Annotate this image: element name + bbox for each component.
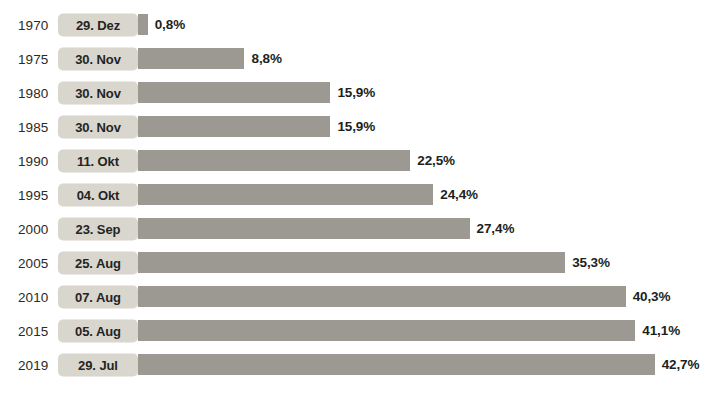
row-date-pill: 04. Okt	[58, 183, 138, 206]
row-date-pill: 30. Nov	[58, 115, 138, 138]
row-year-label: 1975	[18, 51, 58, 66]
row-bar	[138, 184, 433, 205]
chart-row: 199011. Okt22,5%	[0, 150, 720, 171]
chart-row: 199504. Okt24,4%	[0, 184, 720, 205]
row-date-pill: 30. Nov	[58, 47, 138, 70]
row-bar	[138, 320, 635, 341]
row-year-label: 2015	[18, 323, 58, 338]
row-bar-area: 22,5%	[138, 150, 720, 171]
row-date-pill: 23. Sep	[58, 217, 138, 240]
row-date-pill: 29. Dez	[58, 13, 138, 36]
row-bar-area: 8,8%	[138, 48, 720, 69]
row-year-label: 2000	[18, 221, 58, 236]
row-bar	[138, 116, 330, 137]
chart-row: 200023. Sep27,4%	[0, 218, 720, 239]
chart-row: 198030. Nov15,9%	[0, 82, 720, 103]
row-value-label: 35,3%	[572, 255, 610, 270]
row-date-pill: 29. Jul	[58, 353, 138, 376]
chart-row: 197029. Dez0,8%	[0, 14, 720, 35]
row-year-label: 1970	[18, 17, 58, 32]
row-bar	[138, 218, 470, 239]
row-year-label: 2005	[18, 255, 58, 270]
chart-row: 198530. Nov15,9%	[0, 116, 720, 137]
row-bar	[138, 14, 148, 35]
row-value-label: 41,1%	[642, 323, 680, 338]
row-bar-area: 42,7%	[138, 354, 720, 375]
row-date-pill: 25. Aug	[58, 251, 138, 274]
row-date-pill: 11. Okt	[58, 149, 138, 172]
row-bar	[138, 286, 626, 307]
row-bar-area: 41,1%	[138, 320, 720, 341]
overshoot-day-bar-chart: 197029. Dez0,8%197530. Nov8,8%198030. No…	[0, 0, 720, 396]
row-bar-area: 0,8%	[138, 14, 720, 35]
row-bar	[138, 82, 330, 103]
row-value-label: 15,9%	[337, 119, 375, 134]
row-bar	[138, 48, 244, 69]
row-value-label: 40,3%	[633, 289, 671, 304]
chart-row: 197530. Nov8,8%	[0, 48, 720, 69]
row-bar-area: 40,3%	[138, 286, 720, 307]
row-bar-area: 15,9%	[138, 116, 720, 137]
row-date-pill: 30. Nov	[58, 81, 138, 104]
row-year-label: 1990	[18, 153, 58, 168]
chart-rows: 197029. Dez0,8%197530. Nov8,8%198030. No…	[0, 14, 720, 375]
row-bar-area: 35,3%	[138, 252, 720, 273]
row-date-pill: 07. Aug	[58, 285, 138, 308]
row-year-label: 2019	[18, 357, 58, 372]
row-value-label: 8,8%	[251, 51, 281, 66]
row-year-label: 1985	[18, 119, 58, 134]
row-bar-area: 15,9%	[138, 82, 720, 103]
row-value-label: 22,5%	[417, 153, 455, 168]
chart-row: 200525. Aug35,3%	[0, 252, 720, 273]
chart-row: 201007. Aug40,3%	[0, 286, 720, 307]
chart-row: 201505. Aug41,1%	[0, 320, 720, 341]
row-bar	[138, 354, 655, 375]
row-value-label: 42,7%	[662, 357, 700, 372]
row-value-label: 24,4%	[440, 187, 478, 202]
row-bar-area: 24,4%	[138, 184, 720, 205]
row-value-label: 27,4%	[477, 221, 515, 236]
chart-row: 201929. Jul42,7%	[0, 354, 720, 375]
row-bar-area: 27,4%	[138, 218, 720, 239]
row-year-label: 1980	[18, 85, 58, 100]
row-year-label: 2010	[18, 289, 58, 304]
row-value-label: 15,9%	[337, 85, 375, 100]
row-year-label: 1995	[18, 187, 58, 202]
row-value-label: 0,8%	[155, 17, 185, 32]
row-bar	[138, 252, 565, 273]
row-date-pill: 05. Aug	[58, 319, 138, 342]
row-bar	[138, 150, 410, 171]
